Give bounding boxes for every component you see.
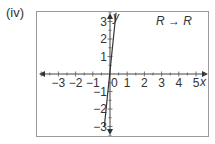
origin-label: 0 [111, 76, 118, 90]
x-tick-label: 5 [193, 76, 200, 90]
x-tick-label: −3 [52, 76, 66, 90]
y-tick-label: 3 [100, 15, 107, 29]
function-graph: −3−2−1012345−3−2−1123xyR → R [0, 0, 215, 144]
mapping-annotation: R → R [156, 14, 192, 28]
y-axis-down-arrow-icon [107, 129, 113, 135]
x-tick-label: 2 [141, 76, 148, 90]
x-tick-label: 4 [175, 76, 182, 90]
x-tick-label: 1 [124, 76, 131, 90]
x-tick-label: 3 [158, 76, 165, 90]
x-tick-label: −2 [69, 76, 83, 90]
y-tick-label: 1 [100, 50, 107, 64]
x-axis-left-arrow-icon [39, 71, 45, 77]
y-tick-label: −1 [93, 85, 107, 99]
x-axis-label: x [199, 75, 207, 89]
y-tick-label: 2 [100, 32, 107, 46]
